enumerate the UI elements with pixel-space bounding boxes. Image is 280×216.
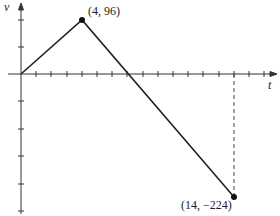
- series-line: [21, 20, 234, 197]
- y-axis-label: v: [4, 0, 9, 15]
- y-axis: [18, 3, 24, 214]
- x-axis-label: t: [268, 78, 271, 93]
- peak-point: [79, 17, 85, 23]
- peak-annotation: (4, 96): [88, 4, 120, 19]
- chart-canvas: [0, 0, 280, 216]
- end-point: [231, 194, 237, 200]
- end-annotation: (14, −224): [181, 198, 232, 213]
- x-axis: [8, 71, 277, 77]
